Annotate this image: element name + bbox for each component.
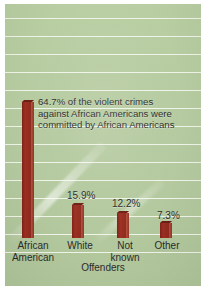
category-label-line1: Other [139,240,195,252]
annotation-line-1: 64.7% of the violent crimes [38,96,200,108]
bar-side [126,213,129,238]
bar-side [81,205,84,238]
gridline [5,198,201,199]
gridline [5,54,201,55]
bar-face [72,205,81,238]
chart-figure: 15.9% 12.2% 7.3% 64.7% of the violent cr… [0,0,209,293]
gridline [5,180,201,181]
x-axis-title: Offenders [5,262,201,273]
chart-annotation: 64.7% of the violent crimes against Afri… [38,96,200,131]
bar-face [160,223,169,238]
bar-side [31,102,34,238]
bar-face [117,213,126,238]
plot-area: 15.9% 12.2% 7.3% 64.7% of the violent cr… [5,4,201,286]
gridline [5,144,201,145]
gridline [5,162,201,163]
annotation-line-2: against African Americans were [38,108,200,120]
bar-side [169,223,172,238]
bar-face [22,102,31,238]
value-label-other: 7.3% [157,210,180,221]
gridline [5,90,201,91]
value-label-white: 15.9% [67,190,95,201]
gridline [5,36,201,37]
value-label-not-known: 12.2% [112,198,140,209]
gridline [5,72,201,73]
category-label-other: Other [139,240,195,252]
chart-panel: 15.9% 12.2% 7.3% 64.7% of the violent cr… [5,4,201,286]
annotation-line-3: committed by African Americans [38,119,200,131]
gridline [5,18,201,19]
